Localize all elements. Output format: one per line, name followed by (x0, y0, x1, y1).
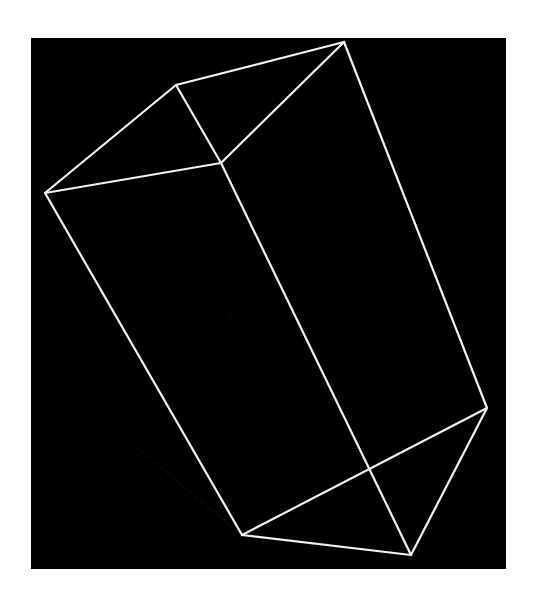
figure-page (0, 0, 534, 605)
render-canvas (31, 38, 506, 569)
volume-rendering-svg (31, 38, 506, 569)
